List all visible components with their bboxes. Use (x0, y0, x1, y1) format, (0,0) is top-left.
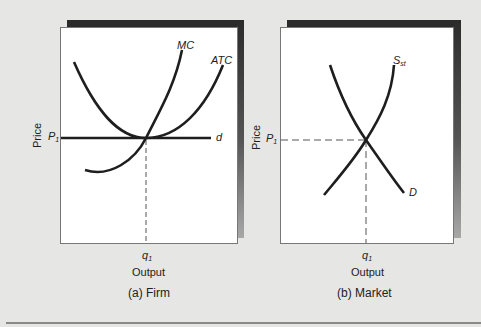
firm-panel-shadow-right (237, 20, 244, 238)
market-q1-tick-sub: 1 (368, 255, 372, 262)
market-p1-tick: P1 (266, 132, 277, 145)
firm-p1-tick-sub: 1 (55, 136, 59, 143)
market-x-axis-label: Output (351, 266, 384, 278)
market-y-axis-label: Price (250, 125, 262, 150)
firm-q1-tick: q1 (142, 249, 152, 262)
figure: MC ATC d P1 Price q1 Output (a) Firm Sst… (0, 0, 481, 327)
market-panel-shadow-right (454, 20, 461, 238)
market-q1-tick: q1 (362, 249, 372, 262)
market-p1-tick-sub: 1 (273, 138, 277, 145)
firm-x-axis-label: Output (132, 266, 165, 278)
market-panel-shadow-top (287, 20, 461, 28)
firm-caption: (a) Firm (128, 286, 170, 300)
firm-d-label: d (216, 131, 222, 143)
market-caption: (b) Market (337, 286, 392, 300)
firm-p1-tick: P1 (48, 130, 59, 143)
firm-panel-shadow-top (67, 20, 244, 28)
firm-mc-label: MC (177, 39, 194, 51)
market-plot-area (281, 28, 454, 244)
market-panel (281, 20, 462, 244)
bottom-rule (6, 322, 481, 324)
firm-y-axis-label: Price (31, 123, 43, 148)
market-demand-label: D (409, 186, 417, 198)
market-supply-label: Sst (393, 54, 406, 67)
firm-atc-label: ATC (211, 54, 232, 66)
diagram-graphics (0, 0, 481, 327)
firm-q1-tick-sub: 1 (148, 255, 152, 262)
market-supply-label-sub: st (400, 60, 405, 67)
